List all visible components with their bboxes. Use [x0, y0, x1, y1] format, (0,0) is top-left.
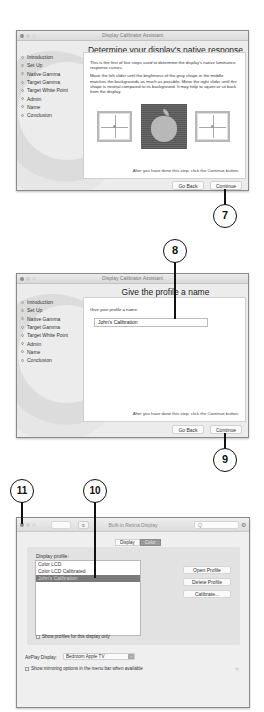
- callout-9: 9: [213, 448, 237, 472]
- window-title: Display Calibrator Assistant: [17, 275, 248, 281]
- calibrate-button[interactable]: Calibrate...: [183, 590, 231, 598]
- bullet-icon: [21, 309, 24, 312]
- apple-leaf-icon: [163, 109, 169, 116]
- step-name: Name: [21, 103, 91, 111]
- footer-instruction: After you have done this step, click the…: [133, 411, 239, 416]
- apple-logo-icon: [151, 116, 177, 142]
- title-bar: Display Calibrator Assistant: [17, 274, 248, 284]
- profile-item-color-lcd[interactable]: Color LCD: [36, 561, 140, 568]
- bullet-icon: [21, 326, 24, 329]
- bullet-icon: [21, 359, 24, 362]
- checkbox-icon[interactable]: [36, 635, 40, 639]
- go-back-button[interactable]: Go Back: [172, 425, 204, 434]
- bullet-icon: [21, 97, 24, 100]
- toolbar: ≡ Built-in Retina Display Q ⚙: [17, 518, 249, 532]
- step-introduction: Introduction: [21, 298, 91, 306]
- bullet-icon: [21, 81, 24, 84]
- steps-sidebar: Introduction Set Up Native Gamma Target …: [21, 53, 91, 119]
- gear-icon[interactable]: ⚙: [241, 521, 246, 528]
- calibrator-window-native-response: Display Calibrator Assistant Determine y…: [16, 30, 249, 191]
- step-admin: Admin: [21, 339, 91, 347]
- bullet-icon: [21, 342, 24, 345]
- callout-leader-line: [174, 262, 176, 319]
- profile-item-johns-calibration[interactable]: John's Calibration: [36, 575, 140, 582]
- profile-item-color-lcd-calibrated[interactable]: Color LCD Calibrated: [36, 568, 140, 575]
- intro-paragraph: This is the first of five steps used to …: [90, 60, 239, 70]
- callout-leader-line: [224, 189, 226, 205]
- callout-7: 7: [213, 204, 237, 228]
- left-slider-frame[interactable]: [97, 111, 132, 142]
- profile-name-prompt: Give your profile a name:: [90, 307, 239, 312]
- bullet-icon: [21, 64, 24, 67]
- step-target-white-point: Target White Point: [21, 331, 91, 339]
- callout-leader-line: [224, 433, 226, 449]
- step-set-up: Set Up: [21, 61, 91, 69]
- page-heading: Give the profile a name: [83, 287, 248, 297]
- step-native-gamma: Native Gamma: [21, 315, 91, 323]
- bullet-icon: [21, 105, 24, 108]
- bullet-icon: [21, 89, 24, 92]
- bullet-icon: [21, 72, 24, 75]
- airplay-display-select[interactable]: Bedroom Apple TV ↕: [63, 653, 135, 660]
- chevron-down-icon: ↕: [128, 654, 134, 659]
- tab-color[interactable]: Color: [140, 539, 161, 546]
- tab-display[interactable]: Display: [115, 539, 140, 546]
- apple-logo-test-pattern: [141, 104, 187, 149]
- step-conclusion: Conclusion: [21, 356, 91, 364]
- callout-leader-line: [94, 502, 96, 578]
- calibrator-window-profile-name: Display Calibrator Assistant Give the pr…: [16, 273, 249, 438]
- bullet-icon: [21, 334, 24, 337]
- step-conclusion: Conclusion: [21, 111, 91, 119]
- callout-8: 8: [163, 239, 187, 263]
- airplay-display-label: AirPlay Display:: [25, 655, 57, 660]
- bullet-icon: [21, 301, 24, 304]
- callout-11: 11: [10, 479, 34, 503]
- step-introduction: Introduction: [21, 53, 91, 61]
- step-set-up: Set Up: [21, 306, 91, 314]
- callout-10: 10: [83, 479, 107, 503]
- search-input[interactable]: Q: [194, 521, 239, 529]
- help-icon[interactable]: ?: [234, 667, 240, 673]
- bullet-icon: [21, 56, 24, 59]
- slider-knob[interactable]: [113, 125, 116, 128]
- go-back-button[interactable]: Go Back: [172, 181, 204, 190]
- tab-control: Display Color: [115, 539, 161, 546]
- slider-knob[interactable]: [211, 125, 214, 128]
- continue-button[interactable]: Continue: [210, 181, 242, 190]
- instructions-paragraph: Move the left slider until the brightnes…: [90, 73, 239, 94]
- profile-name-input[interactable]: John's Calibration: [94, 318, 208, 327]
- title-bar: Display Calibrator Assistant: [17, 31, 248, 41]
- step-target-gamma: Target Gamma: [21, 323, 91, 331]
- content-panel: This is the first of five steps used to …: [83, 52, 246, 179]
- right-slider-frame[interactable]: [195, 111, 230, 142]
- continue-button[interactable]: Continue: [210, 425, 242, 434]
- display-profile-list[interactable]: Color LCD Color LCD Calibrated John's Ca…: [35, 560, 141, 636]
- step-admin: Admin: [21, 94, 91, 102]
- show-profiles-checkbox[interactable]: Show profiles for this display only: [36, 634, 110, 639]
- bullet-icon: [21, 350, 24, 353]
- checkbox-icon[interactable]: [25, 667, 29, 671]
- show-mirroring-checkbox[interactable]: Show mirroring options in the menu bar w…: [25, 666, 143, 671]
- content-panel: Give your profile a name: John's Calibra…: [83, 297, 246, 422]
- footer-instruction: After you have done this step, click the…: [133, 168, 239, 173]
- callout-leader-line: [21, 502, 23, 524]
- open-profile-button[interactable]: Open Profile: [183, 566, 231, 574]
- step-name: Name: [21, 348, 91, 356]
- step-native-gamma: Native Gamma: [21, 70, 91, 78]
- step-target-white-point: Target White Point: [21, 86, 91, 94]
- window-title: Display Calibrator Assistant: [17, 32, 248, 38]
- bullet-icon: [21, 317, 24, 320]
- step-target-gamma: Target Gamma: [21, 78, 91, 86]
- delete-profile-button[interactable]: Delete Profile: [183, 578, 231, 586]
- steps-sidebar: Introduction Set Up Native Gamma Target …: [21, 298, 91, 364]
- bullet-icon: [21, 114, 24, 117]
- display-preferences-window: ≡ Built-in Retina Display Q ⚙ Display Co…: [16, 517, 250, 708]
- display-profile-label: Display profile:: [36, 553, 69, 559]
